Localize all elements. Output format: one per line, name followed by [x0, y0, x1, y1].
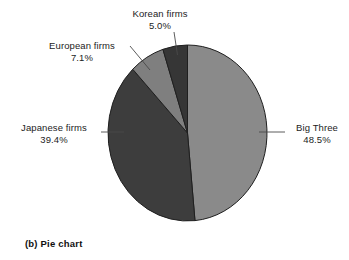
pie-label-korean-firms-name: Korean firms — [113, 8, 207, 20]
pie-label-japanese-firms-name: Japanese firms — [8, 122, 100, 134]
pie-label-japanese-firms: Japanese firms 39.4% — [8, 122, 100, 145]
pie-label-european-firms: European firms 7.1% — [35, 40, 129, 63]
pie-label-european-firms-name: European firms — [35, 40, 129, 52]
pie-label-european-firms-value: 7.1% — [35, 52, 129, 64]
pie-label-korean-firms-value: 5.0% — [113, 20, 207, 32]
pie-label-korean-firms: Korean firms 5.0% — [113, 8, 207, 31]
pie-label-big-three: Big Three 48.5% — [288, 122, 346, 145]
pie-label-big-three-name: Big Three — [288, 122, 346, 134]
pie-label-japanese-firms-value: 39.4% — [8, 134, 100, 146]
pie-slice-big-three — [188, 45, 268, 221]
figure-caption: (b) Pie chart — [25, 238, 83, 249]
pie-chart-figure: Korean firms 5.0% European firms 7.1% Ja… — [0, 0, 349, 260]
pie-label-big-three-value: 48.5% — [288, 134, 346, 146]
